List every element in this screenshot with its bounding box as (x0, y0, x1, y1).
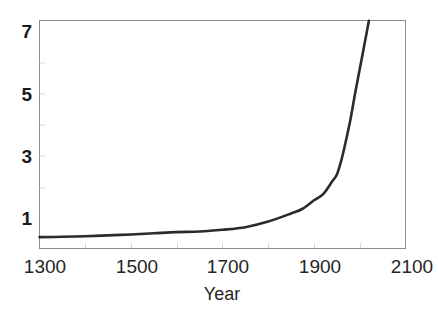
plot-frame (40, 21, 406, 249)
plot-area (0, 0, 438, 318)
population-line-chart: 7 5 3 1 1300 1500 1700 1900 2100 Year (0, 0, 438, 318)
